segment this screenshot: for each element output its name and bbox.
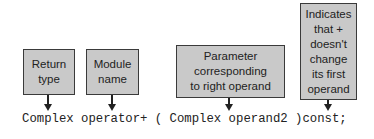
annotation-box-const: Indicates that + doesn't change its firs… xyxy=(300,3,357,100)
code-signature: Complex operator+ ( Complex operand2 )co… xyxy=(22,112,347,126)
annotation-box-right-operand: Parameter corresponding to right operand xyxy=(176,45,285,98)
diagram-canvas: Return type Module name Parameter corres… xyxy=(0,0,374,139)
annotation-box-module-name: Module name xyxy=(86,49,139,95)
annotation-box-return-type: Return type xyxy=(23,49,75,95)
